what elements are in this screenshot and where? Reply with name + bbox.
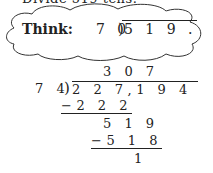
dividend: 2 2 7,1 9 4: [72, 81, 198, 97]
subtract-step-2: −5 1 8: [91, 133, 162, 149]
partial-dividend: 5 1 9: [103, 116, 159, 131]
subtract-step-1: −2 2 2: [61, 98, 132, 114]
remainder: 1: [134, 151, 147, 166]
think-dividend: 5 1 9 .: [122, 20, 197, 37]
think-label: Think:: [22, 21, 73, 37]
quotient: 3 0 7: [103, 64, 159, 79]
